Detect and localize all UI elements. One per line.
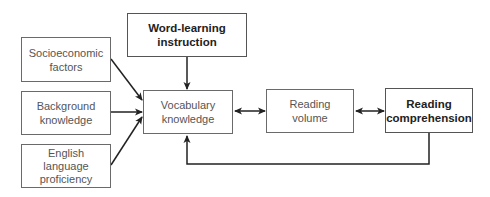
node-background-knowledge: Background knowledge [21, 91, 111, 135]
node-label: language [43, 160, 88, 173]
node-label: Reading [406, 97, 451, 111]
edge-comprehension-feedback [187, 133, 429, 164]
node-reading-comprehension: Reading comprehension [385, 88, 473, 133]
node-label: factors [49, 60, 82, 74]
node-socioeconomic-factors: Socioeconomic factors [21, 37, 111, 82]
node-label: knowledge [40, 113, 93, 127]
node-label: English [48, 147, 84, 160]
node-label: instruction [157, 35, 216, 49]
node-word-learning-instruction: Word-learning instruction [127, 13, 247, 57]
node-label: Socioeconomic [29, 46, 104, 60]
node-label: Background [37, 99, 96, 113]
node-label: comprehension [386, 111, 472, 125]
node-vocabulary-knowledge: Vocabulary knowledge [143, 90, 233, 134]
node-label: Word-learning [148, 21, 226, 35]
node-label: volume [292, 111, 327, 125]
edge-socioeconomic-vocabulary [111, 59, 142, 100]
node-label: Reading [290, 97, 331, 111]
node-label: proficiency [40, 173, 93, 186]
node-english-language-proficiency: English language proficiency [21, 144, 111, 188]
node-label: knowledge [162, 112, 215, 126]
edge-english-vocabulary [111, 117, 142, 165]
node-label: Vocabulary [161, 98, 215, 112]
node-reading-volume: Reading volume [266, 89, 354, 133]
